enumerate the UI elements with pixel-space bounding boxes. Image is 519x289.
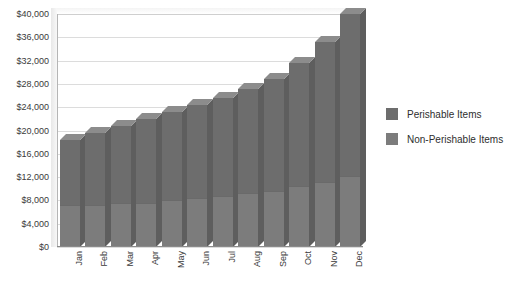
legend-swatch-icon <box>386 108 398 120</box>
x-axis-tick-label: Dec <box>354 251 364 267</box>
bar-group[interactable] <box>162 112 182 247</box>
axis-left-line <box>57 14 58 247</box>
x-axis-tick-label: Oct <box>303 251 313 265</box>
y-axis-tick-label: $8,000 <box>21 195 49 205</box>
bar-front-face <box>340 14 360 247</box>
bar-segment-non-perishable <box>111 203 131 247</box>
chart-legend: Perishable ItemsNon-Perishable Items <box>386 108 516 158</box>
x-axis-tick-label: Jun <box>201 251 211 266</box>
bar-front-face <box>213 98 233 247</box>
y-axis: $0$4,000$8,000$12,000$16,000$20,000$24,0… <box>0 0 53 289</box>
x-axis: JanFebMarAprMayJunJulAugSepOctNovDec <box>57 249 363 289</box>
bar-segment-perishable <box>340 14 360 176</box>
stacked-bar-chart: $0$4,000$8,000$12,000$16,000$20,000$24,0… <box>0 0 519 289</box>
bar-segment-non-perishable <box>162 200 182 247</box>
bar-front-face <box>162 112 182 247</box>
bar-segment-non-perishable <box>85 205 105 247</box>
x-axis-tick-label: Sep <box>278 251 288 267</box>
bar-group[interactable] <box>187 105 207 247</box>
bar-segment-non-perishable <box>340 176 360 247</box>
bar-segment-perishable <box>60 140 80 205</box>
bar-segment-perishable <box>289 63 309 186</box>
bar-segment-non-perishable <box>213 196 233 247</box>
y-axis-tick-label: $12,000 <box>16 172 49 182</box>
bar-front-face <box>238 89 258 247</box>
y-axis-tick-label: $24,000 <box>16 102 49 112</box>
bar-group[interactable] <box>264 79 284 247</box>
bar-segment-non-perishable <box>187 198 207 247</box>
bar-segment-perishable <box>187 105 207 198</box>
bar-group[interactable] <box>289 63 309 247</box>
bar-segment-non-perishable <box>238 193 258 247</box>
bar-series-container <box>57 14 363 247</box>
bar-group[interactable] <box>315 42 335 247</box>
bar-segment-perishable <box>111 126 131 203</box>
bar-segment-perishable <box>162 112 182 201</box>
legend-item[interactable]: Non-Perishable Items <box>386 133 516 145</box>
y-axis-tick-label: $36,000 <box>16 32 49 42</box>
bar-front-face <box>60 140 80 247</box>
bar-front-face <box>264 79 284 247</box>
y-axis-tick-label: $16,000 <box>16 149 49 159</box>
x-axis-tick-label: Jan <box>74 251 84 266</box>
bar-front-face <box>136 119 156 247</box>
bar-segment-non-perishable <box>136 203 156 247</box>
y-axis-tick-label: $20,000 <box>16 126 49 136</box>
bar-side-face <box>360 8 366 247</box>
legend-item[interactable]: Perishable Items <box>386 108 516 120</box>
bar-group[interactable] <box>238 89 258 247</box>
legend-label: Perishable Items <box>407 109 481 120</box>
x-axis-tick-label: Nov <box>329 251 339 267</box>
bar-group[interactable] <box>213 98 233 247</box>
bar-front-face <box>315 42 335 247</box>
y-axis-tick-label: $40,000 <box>16 9 49 19</box>
bar-segment-perishable <box>238 89 258 194</box>
x-axis-tick-label: Mar <box>125 251 135 267</box>
legend-swatch-icon <box>386 133 398 145</box>
y-axis-tick-label: $32,000 <box>16 56 49 66</box>
bar-group[interactable] <box>85 133 105 247</box>
bar-front-face <box>289 63 309 247</box>
x-axis-tick-label: Jul <box>227 251 237 263</box>
x-axis-tick-label: Feb <box>99 251 109 267</box>
bar-segment-perishable <box>136 119 156 203</box>
x-axis-tick-label: May <box>176 251 186 268</box>
x-axis-tick-label: Apr <box>150 251 160 265</box>
y-axis-tick-label: $28,000 <box>16 79 49 89</box>
bar-group[interactable] <box>340 14 360 247</box>
bar-segment-perishable <box>213 98 233 196</box>
bar-segment-non-perishable <box>264 191 284 247</box>
bar-front-face <box>187 105 207 247</box>
plot-area <box>57 14 363 247</box>
bar-group[interactable] <box>136 119 156 247</box>
gridline-horizontal <box>57 247 363 248</box>
bar-segment-non-perishable <box>289 186 309 247</box>
bar-group[interactable] <box>111 126 131 247</box>
bar-segment-perishable <box>85 133 105 205</box>
bar-segment-non-perishable <box>315 182 335 247</box>
bar-segment-perishable <box>315 42 335 182</box>
axis-baseline <box>57 246 363 247</box>
y-axis-tick-label: $4,000 <box>21 219 49 229</box>
bar-front-face <box>111 126 131 247</box>
bar-group[interactable] <box>60 140 80 247</box>
bar-segment-non-perishable <box>60 205 80 247</box>
x-axis-tick-label: Aug <box>252 251 262 267</box>
legend-label: Non-Perishable Items <box>407 134 503 145</box>
y-axis-tick-label: $0 <box>39 242 49 252</box>
bar-front-face <box>85 133 105 247</box>
bar-segment-perishable <box>264 79 284 191</box>
